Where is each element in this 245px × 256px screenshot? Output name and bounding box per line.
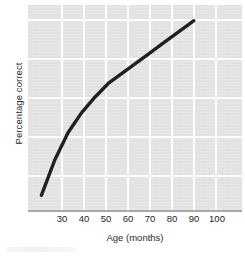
plot-area: 100 80 60 40 20	[28, 5, 242, 211]
x-tick-label-100: 100	[209, 213, 225, 224]
chart-figure: Percentage correct 100 80 60 40 20 30 40…	[0, 0, 245, 256]
x-axis-line	[28, 210, 242, 212]
x-tick-label-60: 60	[123, 213, 134, 224]
x-tick-label-40: 40	[79, 213, 90, 224]
x-tick-label-50: 50	[101, 213, 112, 224]
x-tick-label-90: 90	[189, 213, 200, 224]
y-axis-title: Percentage correct	[13, 34, 24, 174]
data-curve	[28, 5, 242, 211]
x-tick-label-30: 30	[57, 213, 68, 224]
x-tick-label-70: 70	[145, 213, 156, 224]
x-axis-title: Age (months)	[28, 232, 242, 243]
page-artifact	[6, 247, 76, 252]
x-tick-label-80: 80	[167, 213, 178, 224]
